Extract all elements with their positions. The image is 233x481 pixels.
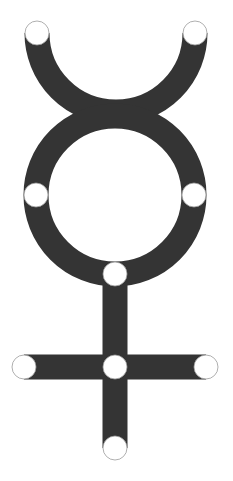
horns-arc xyxy=(37,33,195,112)
node-ring-left xyxy=(24,183,48,207)
mercury-symbol-canvas xyxy=(0,0,233,481)
node-horn-left-tip xyxy=(25,21,49,45)
node-stem-bottom xyxy=(103,436,127,460)
node-crossbar-right xyxy=(194,355,218,379)
node-ring-bottom xyxy=(103,262,127,286)
node-ring-right xyxy=(182,183,206,207)
node-crossbar-left xyxy=(12,355,36,379)
node-horn-right-tip xyxy=(183,21,207,45)
symbol-shape xyxy=(24,33,206,448)
node-crossbar-center xyxy=(103,355,127,379)
ring xyxy=(36,116,194,274)
